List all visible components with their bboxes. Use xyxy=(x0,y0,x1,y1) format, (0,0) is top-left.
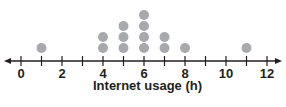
right-arrow-icon xyxy=(275,58,282,64)
data-dot xyxy=(160,32,170,42)
data-dot xyxy=(98,32,108,42)
x-axis-label: Internet usage (h) xyxy=(93,78,202,93)
x-tick-label: 10 xyxy=(216,66,236,81)
data-dot xyxy=(160,43,170,53)
data-dot xyxy=(98,43,108,53)
data-dot xyxy=(139,32,149,42)
data-dot xyxy=(119,32,129,42)
left-arrow-icon xyxy=(4,58,11,64)
data-dot xyxy=(139,10,149,20)
data-dot xyxy=(37,43,47,53)
x-tick-label: 0 xyxy=(11,66,31,81)
x-tick-label: 12 xyxy=(257,66,277,81)
number-line xyxy=(4,56,282,66)
data-dot xyxy=(119,43,129,53)
data-dot xyxy=(139,43,149,53)
x-tick-label: 2 xyxy=(52,66,72,81)
data-dot xyxy=(180,43,190,53)
data-dot xyxy=(119,21,129,31)
data-dot xyxy=(242,43,252,53)
data-dot xyxy=(139,21,149,31)
data-dots xyxy=(37,10,252,53)
